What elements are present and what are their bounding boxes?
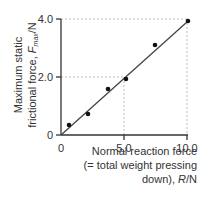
data-point [186, 19, 191, 24]
data-point [106, 87, 111, 92]
data-point [124, 77, 129, 82]
data-point [86, 112, 91, 117]
y-tick-4: 4.0 [38, 13, 53, 25]
data-point [67, 123, 72, 128]
svg-text:Maximum static: Maximum static [12, 36, 24, 113]
svg-text:frictional force, Fmax/N: frictional force, Fmax/N [26, 22, 39, 128]
data-point [153, 43, 158, 48]
x-tick-0: 0 [58, 142, 64, 154]
y-tick-2: 2.0 [38, 71, 53, 83]
y-axis-label: Maximum static frictional force, Fmax/N [12, 22, 39, 128]
x-axis-label: Normal reaction force (= total weight pr… [67, 144, 197, 186]
y-tick-0: 0 [47, 129, 53, 141]
